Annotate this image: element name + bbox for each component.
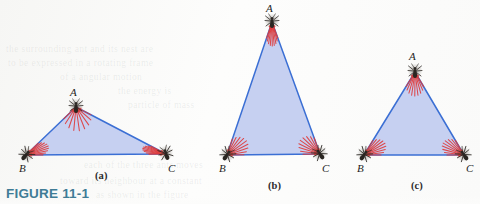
- vertex-label-a-a: A: [69, 86, 77, 98]
- panel-a: [16, 99, 175, 165]
- vertex-label-c-a: A: [408, 50, 416, 62]
- vertex-label-b-a: A: [265, 2, 273, 14]
- vertex-label-b-c: C: [322, 162, 330, 174]
- figure-caption: FIGURE 11-1: [6, 186, 89, 201]
- panel-label-a: (a): [95, 170, 108, 181]
- ant-b-a: [265, 14, 280, 29]
- panel-b: [217, 14, 330, 165]
- figure-container: the surrounding ant and its nest areto b…: [0, 0, 480, 204]
- vertex-label-c-c: C: [466, 162, 474, 174]
- vertex-label-a-b: B: [19, 162, 26, 174]
- panel-label-b: (b): [268, 180, 281, 191]
- ant-a-c: [156, 143, 175, 162]
- vertex-label-c-b: B: [357, 162, 364, 174]
- vertex-label-a-c: C: [168, 162, 176, 174]
- vertex-label-b-b: B: [219, 162, 226, 174]
- figure-illustration: ABCABCABC: [0, 0, 480, 204]
- ant-a-a: [69, 99, 84, 114]
- ant-c-a: [408, 64, 423, 79]
- panel-label-c: (c): [411, 180, 423, 191]
- panel-c: [354, 64, 474, 165]
- triangle-c: [364, 72, 464, 155]
